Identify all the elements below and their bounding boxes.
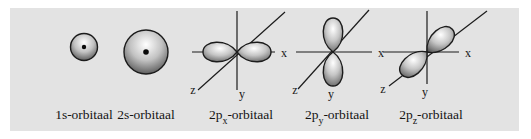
orbital-cell-2pz: x y z 2pz-orbitaal [371, 8, 491, 131]
caption-text: -orbitaal [417, 107, 463, 122]
y-axis-label: y [239, 87, 245, 101]
y-axis-label: y [328, 87, 334, 101]
caption-text: -orbitaal [227, 107, 273, 122]
z-axis-label: z [380, 82, 385, 96]
caption-2s: 2s-orbitaal [106, 105, 186, 127]
nucleus-dot [82, 45, 86, 49]
caption-text: 2p [209, 107, 223, 122]
lobe-up [323, 18, 343, 52]
y-axis-label: y [422, 85, 428, 99]
caption-2pz: 2pz-orbitaal [371, 105, 491, 127]
z-axis-label: z [190, 83, 195, 97]
lobe-upper-right [427, 27, 455, 53]
nucleus-dot [143, 49, 149, 55]
caption-text: -orbitaal [323, 107, 369, 122]
caption-subscript: y [318, 115, 323, 126]
caption-subscript: x [222, 115, 227, 126]
lobe-lower-left [400, 51, 428, 77]
orbital-2s-diagram [106, 8, 186, 104]
figure-page: 1s-orbitaal 2s-orbitaal x y z [0, 0, 531, 139]
caption-subscript: z [413, 115, 417, 126]
lobe-right [237, 42, 271, 62]
orbital-2pz-diagram: x y z [371, 8, 491, 104]
caption-text: 2s-orbitaal [117, 107, 175, 122]
orbital-cell-2s: 2s-orbitaal [106, 8, 186, 131]
caption-text: 2p [305, 107, 319, 122]
caption-text: 2p [399, 107, 413, 122]
x-axis-label: x [465, 46, 471, 60]
figure-panel: 1s-orbitaal 2s-orbitaal x y z [10, 8, 519, 131]
z-axis-label: z [292, 83, 297, 97]
caption-text: 1s-orbitaal [55, 107, 113, 122]
